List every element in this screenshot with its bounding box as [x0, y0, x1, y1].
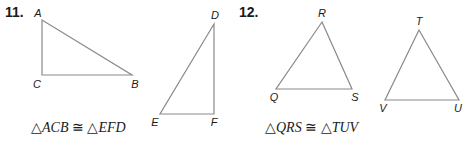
- triangle-qrs: [276, 22, 352, 89]
- triangle-symbol: △: [31, 120, 42, 135]
- problem-number-12: 12.: [239, 5, 258, 19]
- triangle-symbol: △: [321, 120, 332, 135]
- congruent-symbol: ≅: [72, 120, 84, 135]
- vertex-label-s: S: [351, 92, 358, 103]
- triangle-name-right: TUV: [332, 120, 358, 135]
- vertex-label-u: U: [454, 103, 462, 114]
- vertex-label-v: V: [379, 103, 386, 114]
- vertex-label-q: Q: [270, 92, 279, 103]
- triangle-tuv: [385, 30, 459, 100]
- vertex-label-e: E: [151, 117, 158, 128]
- triangle-symbol: △: [87, 120, 98, 135]
- vertex-label-a: A: [34, 8, 41, 19]
- triangle-efd: [160, 24, 214, 114]
- geometry-exercise-page: 11. A C B D E F △ACB ≅ △EFD 12. R Q S T …: [0, 0, 471, 145]
- vertex-label-r: R: [318, 8, 326, 19]
- vertex-label-b: B: [131, 79, 138, 90]
- triangle-acb: [42, 20, 132, 75]
- problem-number-11: 11.: [5, 5, 24, 19]
- congruence-statement-11: △ACB ≅ △EFD: [31, 121, 126, 135]
- vertex-label-t: T: [416, 16, 423, 27]
- congruent-symbol: ≅: [305, 120, 317, 135]
- triangle-name-left: ACB: [42, 120, 68, 135]
- vertex-label-c: C: [33, 79, 41, 90]
- triangle-name-left: QRS: [276, 120, 302, 135]
- vertex-label-d: D: [211, 10, 219, 21]
- triangle-name-right: EFD: [98, 120, 125, 135]
- triangle-symbol: △: [265, 120, 276, 135]
- congruence-statement-12: △QRS ≅ △TUV: [265, 121, 358, 135]
- vertex-label-f: F: [211, 117, 218, 128]
